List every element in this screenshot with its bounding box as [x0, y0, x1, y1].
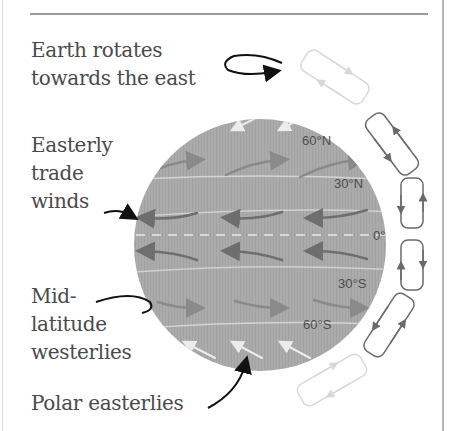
rotation-arrow-icon [225, 55, 282, 74]
trade-winds-label-line3: winds [31, 189, 89, 213]
latitude-label-30s: 30°S [338, 276, 366, 291]
latitude-label-60s: 60°S [303, 317, 331, 332]
latitude-label-60n: 60°N [302, 133, 331, 148]
latitude-label-equator: 0° [373, 228, 385, 243]
westerlies-label-line3: westerlies [31, 340, 132, 364]
global-winds-diagram [0, 0, 453, 431]
polar-cell-north [298, 47, 371, 106]
trade-winds-pointer [104, 211, 130, 215]
trade-winds-label-line2: trade [31, 161, 84, 185]
hadley-cell-north [401, 178, 423, 228]
westerlies-label-line2: latitude [31, 312, 107, 336]
westerlies-pointer [96, 296, 151, 313]
rotation-label-line1: Earth rotates [31, 38, 162, 62]
westerlies-label-line1: Mid- [31, 284, 76, 308]
latitude-label-30n: 30°N [334, 176, 363, 191]
rotation-label-line2: towards the east [31, 66, 195, 90]
hadley-cell-south [401, 240, 423, 290]
polar-easterlies-label: Polar easterlies [31, 391, 183, 415]
trade-winds-label-line1: Easterly [31, 133, 113, 157]
ferrel-cell-north [363, 110, 421, 178]
polar-easterlies-pointer [208, 365, 245, 408]
earth-globe [120, 113, 400, 371]
